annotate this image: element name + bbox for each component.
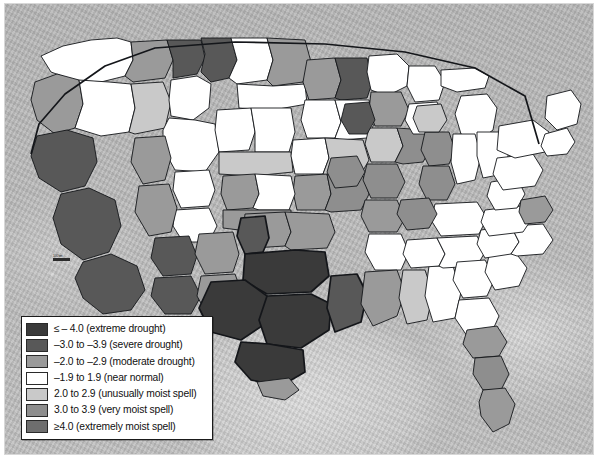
region-wisconsin-n — [407, 66, 445, 102]
legend-item-near-normal: –1.9 to 1.9 (near normal) — [26, 370, 207, 386]
scale-bar-line — [53, 258, 70, 261]
region-kansas-w — [293, 174, 331, 210]
region-washington-east — [125, 40, 173, 82]
region-colorado-nw — [221, 174, 259, 210]
region-arizona-n — [151, 236, 197, 276]
legend-swatch-near-normal — [26, 372, 48, 385]
region-colorado-ne — [253, 174, 295, 210]
region-california-central — [53, 188, 121, 260]
region-illinois-n — [421, 132, 455, 166]
region-new-england-n — [545, 90, 581, 130]
region-texas-panhandle — [237, 216, 269, 254]
region-illinois-s — [419, 166, 455, 200]
region-florida-central — [473, 356, 509, 390]
region-florida-south — [479, 388, 515, 432]
legend-item-severe-drought: –3.0 to –3.9 (severe drought) — [26, 337, 207, 353]
region-nevada-n — [131, 136, 171, 184]
region-north-dakota-e — [335, 58, 373, 100]
region-upper-midwest-dark — [341, 102, 375, 134]
region-texas-tip — [257, 378, 299, 400]
region-montana-se — [237, 84, 307, 110]
region-wyoming-nw — [215, 108, 255, 152]
region-nebraska-w — [291, 138, 329, 174]
region-ozarks-mid — [397, 198, 437, 230]
region-indiana — [451, 134, 481, 184]
drought-map-figure: 100 km ≤ – 4.0 (extreme drought) –3.0 to… — [0, 0, 596, 465]
scale-bar: 100 km — [53, 254, 70, 261]
legend-item-very-moist: 3.0 to 3.9 (very moist spell) — [26, 402, 207, 418]
map-plate: 100 km ≤ – 4.0 (extreme drought) –3.0 to… — [4, 3, 594, 455]
legend-item-extreme-drought: ≤ – 4.0 (extreme drought) — [26, 321, 207, 337]
region-louisiana — [361, 270, 405, 326]
legend-label-extremely-moist: ≥4.0 (extremely moist spell) — [54, 422, 176, 432]
legend-label-unusually-moist: 2.0 to 2.9 (unusually moist spell) — [54, 389, 197, 399]
legend-item-unusually-moist: 2.0 to 2.9 (unusually moist spell) — [26, 386, 207, 402]
region-florida-north — [463, 326, 507, 358]
legend-label-very-moist: 3.0 to 3.9 (very moist spell) — [54, 405, 173, 415]
region-great-lakes-mid — [413, 104, 447, 132]
region-wyoming-ne — [251, 108, 295, 152]
region-pennsylvania — [493, 154, 543, 190]
region-texas-south — [235, 342, 305, 386]
legend-swatch-extremely-moist — [26, 420, 48, 433]
region-oklahoma-e — [285, 212, 335, 250]
region-idaho-north — [169, 76, 211, 120]
legend-label-severe-drought: –3.0 to –3.9 (severe drought) — [54, 340, 182, 350]
region-wyoming-south — [219, 152, 293, 176]
region-idaho-south — [163, 118, 219, 172]
legend-swatch-unusually-moist — [26, 388, 48, 401]
legend-swatch-extreme-drought — [26, 323, 48, 336]
region-nevada-s — [135, 184, 177, 236]
legend-swatch-very-moist — [26, 404, 48, 417]
legend-label-near-normal: –1.9 to 1.9 (near normal) — [54, 373, 164, 383]
legend-swatch-moderate-drought — [26, 355, 48, 368]
legend-swatch-severe-drought — [26, 339, 48, 352]
region-kentucky — [431, 202, 487, 236]
legend-label-extreme-drought: ≤ – 4.0 (extreme drought) — [54, 324, 166, 334]
region-california-n — [31, 130, 97, 192]
region-minnesota-n — [367, 54, 409, 96]
region-new-mexico-n — [195, 232, 239, 274]
region-arkansas — [365, 234, 409, 270]
region-oregon-mid — [75, 80, 135, 136]
region-texas-central — [259, 294, 331, 348]
region-north-dakota-w — [303, 58, 341, 100]
region-new-york — [497, 120, 549, 158]
map-legend: ≤ – 4.0 (extreme drought) –3.0 to –3.9 (… — [21, 316, 213, 440]
region-california-s — [75, 254, 145, 314]
region-utah-n — [173, 170, 215, 208]
region-south-dakota-w — [301, 100, 341, 138]
legend-label-moderate-drought: –2.0 to –2.9 (moderate drought) — [54, 357, 195, 367]
region-arizona-s — [151, 276, 201, 314]
region-maryland — [519, 196, 553, 224]
legend-item-moderate-drought: –2.0 to –2.9 (moderate drought) — [26, 354, 207, 370]
legend-item-extremely-moist: ≥4.0 (extremely moist spell) — [26, 419, 207, 435]
region-missouri-n — [363, 164, 405, 198]
region-tennessee-w — [403, 238, 445, 268]
